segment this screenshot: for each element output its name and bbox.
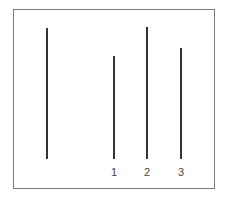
comparison-label-3: 3 <box>175 166 187 178</box>
reference-line <box>46 28 48 159</box>
comparison-label-1: 1 <box>108 166 120 178</box>
comparison-line-2 <box>146 27 148 159</box>
comparison-line-1 <box>113 56 115 159</box>
comparison-line-3 <box>180 48 182 159</box>
comparison-label-2: 2 <box>141 166 153 178</box>
